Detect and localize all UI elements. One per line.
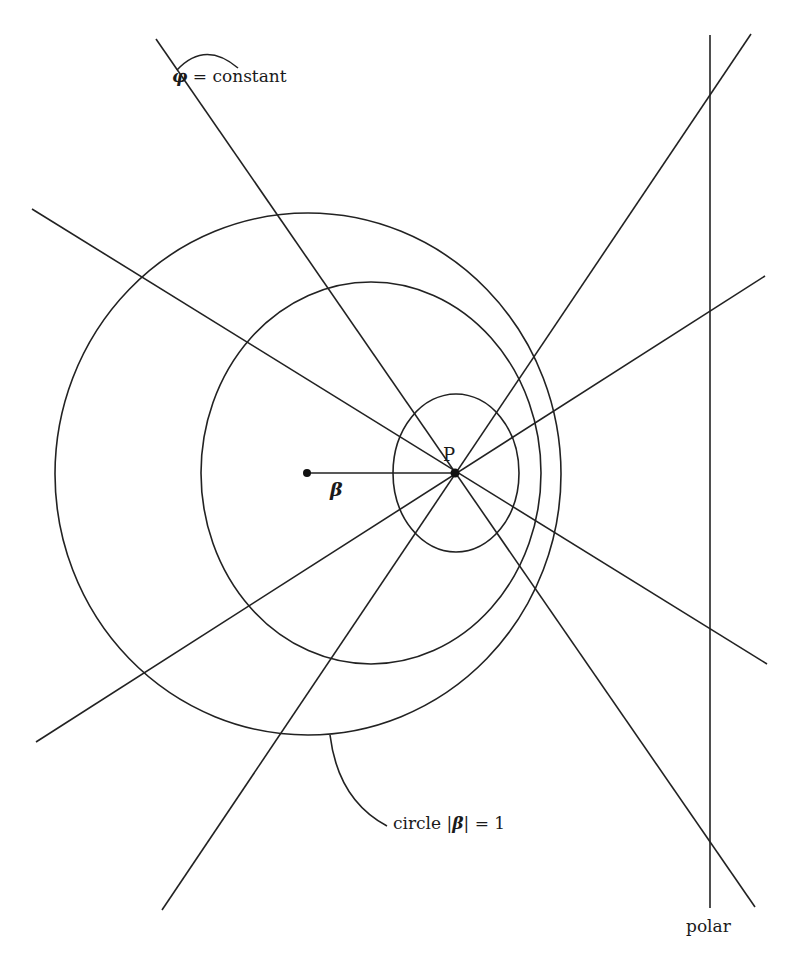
unit-circle-label: circle |β| = 1: [393, 815, 505, 832]
circle-label-suffix: | = 1: [464, 813, 506, 833]
circle-leader-curve: [330, 735, 387, 826]
point-p-dot: [451, 469, 460, 478]
phi-symbol: φ: [172, 66, 187, 86]
phi-line-shallow-a: [32, 209, 767, 664]
phi-constant-label: φ = constant: [172, 68, 287, 85]
circle-label-prefix: circle |: [393, 813, 452, 833]
beta-label: β: [330, 480, 343, 499]
beta-symbol: β: [330, 478, 343, 500]
phi-line-shallow-b: [36, 276, 765, 742]
origin-point: [303, 469, 311, 477]
circle-beta-symbol: β: [452, 813, 463, 833]
point-p-label: P: [443, 446, 455, 464]
phi-label-text: = constant: [187, 66, 286, 86]
polar-label: polar: [686, 918, 731, 935]
